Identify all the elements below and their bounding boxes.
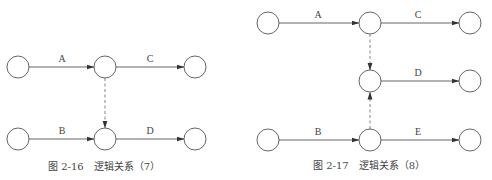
activity-label-d: D bbox=[146, 125, 153, 136]
event-node bbox=[184, 56, 206, 78]
figure-2-16: A C B D 图 2-16 逻辑关系（7） bbox=[7, 53, 206, 172]
activity-label-b: B bbox=[315, 126, 322, 137]
activity-label-a: A bbox=[314, 9, 322, 20]
activity-label-d: D bbox=[414, 67, 421, 78]
event-node bbox=[184, 128, 206, 150]
event-node bbox=[359, 70, 381, 92]
activity-label-c: C bbox=[415, 9, 422, 20]
activity-label-e: E bbox=[415, 126, 421, 137]
event-node bbox=[459, 129, 481, 151]
event-node bbox=[359, 129, 381, 151]
event-node bbox=[257, 129, 279, 151]
event-node bbox=[257, 12, 279, 34]
activity-label-b: B bbox=[59, 125, 66, 136]
figure-2-17: A C D B E 图 2-17 逻辑关系（8） bbox=[257, 9, 481, 171]
event-node bbox=[459, 70, 481, 92]
event-node bbox=[7, 128, 29, 150]
figure-caption: 图 2-16 逻辑关系（7） bbox=[48, 160, 160, 172]
event-node bbox=[7, 56, 29, 78]
activity-label-c: C bbox=[147, 53, 154, 64]
event-node bbox=[459, 12, 481, 34]
event-node bbox=[94, 128, 116, 150]
event-node bbox=[94, 56, 116, 78]
activity-label-a: A bbox=[58, 53, 66, 64]
figure-caption: 图 2-17 逻辑关系（8） bbox=[313, 159, 425, 171]
event-node bbox=[359, 12, 381, 34]
